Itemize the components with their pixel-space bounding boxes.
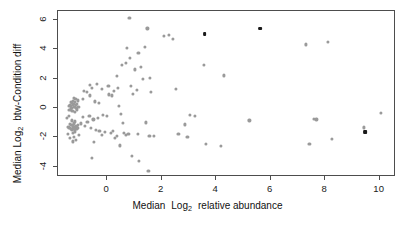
- x-axis-tick: [270, 176, 271, 180]
- x-axis-tick-label: 2: [158, 183, 163, 194]
- data-point: [92, 118, 95, 121]
- x-axis-tick: [379, 176, 380, 180]
- data-point: [115, 134, 118, 137]
- data-point: [379, 112, 382, 115]
- data-point: [136, 133, 139, 136]
- y-axis-title-subscript: 2: [16, 127, 25, 131]
- y-axis-tick: [53, 166, 57, 167]
- data-point: [85, 90, 88, 93]
- x-axis-tick-label: 4: [212, 183, 217, 194]
- data-point: [193, 114, 196, 117]
- x-axis-title-prefix: Median: [132, 200, 165, 211]
- data-point: [72, 131, 75, 134]
- data-point: [127, 133, 130, 136]
- y-axis-tick-label: -4: [37, 159, 48, 173]
- data-point: [248, 119, 251, 122]
- data-point: [103, 130, 106, 133]
- data-point: [90, 156, 93, 159]
- data-point: [93, 100, 96, 103]
- data-point: [117, 105, 120, 108]
- data-point: [78, 134, 81, 137]
- data-point: [141, 78, 144, 81]
- data-point: [95, 83, 98, 86]
- scatter-plot-figure: MedianLog2btw-Condition diff MedianLog2r…: [0, 0, 415, 227]
- y-axis-tick: [53, 19, 57, 20]
- data-point: [222, 74, 225, 77]
- y-axis-tick-label: 6: [37, 12, 48, 26]
- data-point: [94, 128, 97, 131]
- data-point: [101, 88, 104, 91]
- y-axis-tick: [53, 78, 57, 79]
- data-point: [219, 144, 222, 147]
- x-axis-tick: [215, 176, 216, 180]
- data-point: [135, 88, 138, 91]
- y-axis-tick: [53, 136, 57, 137]
- data-point: [90, 126, 93, 129]
- data-point: [125, 46, 128, 49]
- data-point: [330, 138, 333, 141]
- data-points-layer: [58, 11, 394, 175]
- x-axis-title: MedianLog2relative abundance: [0, 200, 415, 211]
- x-axis-tick-label: 0: [103, 183, 108, 194]
- data-point: [168, 33, 171, 36]
- data-point: [76, 127, 79, 130]
- data-point: [90, 87, 93, 90]
- data-point: [98, 129, 101, 132]
- x-axis-tick: [106, 176, 107, 180]
- data-point: [144, 121, 147, 124]
- x-axis-title-subscript: 2: [188, 204, 192, 213]
- data-point: [258, 27, 262, 31]
- y-axis-title-suffix: btw-Condition diff: [12, 44, 23, 121]
- data-point: [186, 135, 189, 138]
- data-point: [171, 37, 174, 40]
- data-point: [129, 85, 132, 88]
- data-point: [116, 87, 119, 90]
- data-point: [304, 43, 307, 46]
- data-point: [86, 120, 89, 123]
- data-point: [140, 66, 143, 69]
- data-point: [326, 41, 329, 44]
- data-point: [362, 126, 365, 129]
- data-point: [163, 34, 166, 37]
- y-axis-tick-label: 2: [37, 71, 48, 85]
- y-axis-tick: [53, 107, 57, 108]
- data-point: [119, 144, 122, 147]
- y-axis-tick: [53, 48, 57, 49]
- data-point: [150, 90, 153, 93]
- data-point: [110, 94, 113, 97]
- y-axis-tick-label: 4: [37, 41, 48, 55]
- x-axis-tick: [161, 176, 162, 180]
- data-point: [128, 16, 131, 19]
- x-axis-tick: [324, 176, 325, 180]
- data-point: [97, 101, 100, 104]
- plot-area: [57, 10, 395, 176]
- data-point: [177, 132, 180, 135]
- data-point: [315, 118, 318, 121]
- data-point: [115, 74, 118, 77]
- data-point: [308, 142, 311, 145]
- x-axis-tick-label: 10: [373, 183, 384, 194]
- data-point: [133, 68, 136, 71]
- data-point: [100, 133, 103, 136]
- data-point: [152, 135, 155, 138]
- data-point: [66, 132, 69, 135]
- data-point: [147, 169, 150, 172]
- y-axis-tick-label: -2: [37, 129, 48, 143]
- data-point: [202, 63, 205, 66]
- data-point: [92, 140, 95, 143]
- data-point: [148, 134, 151, 137]
- data-point: [149, 76, 152, 79]
- data-point: [131, 92, 134, 95]
- data-point: [183, 123, 186, 126]
- x-axis-tick-label: 6: [267, 183, 272, 194]
- data-point: [81, 115, 84, 118]
- data-point: [189, 113, 192, 116]
- data-point: [111, 130, 114, 133]
- x-axis-title-suffix: relative abundance: [198, 200, 283, 211]
- data-point: [129, 57, 132, 60]
- data-point: [143, 45, 146, 48]
- data-point: [89, 94, 92, 97]
- data-point: [75, 138, 78, 141]
- data-point: [88, 114, 91, 117]
- data-point: [119, 113, 122, 116]
